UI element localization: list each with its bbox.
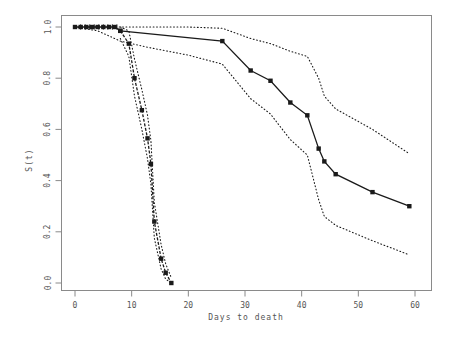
data-point-marker: [163, 271, 167, 275]
x-tick-label: 40: [297, 301, 307, 310]
data-point-marker: [132, 76, 136, 80]
x-tick-label: 0: [73, 301, 78, 310]
data-point-marker: [149, 162, 153, 166]
y-tick-label: 0.2: [44, 224, 53, 239]
data-point-marker: [152, 219, 156, 223]
data-point-marker: [78, 25, 82, 29]
data-point-marker: [316, 146, 320, 150]
data-point-marker: [118, 29, 122, 33]
data-point-marker: [159, 256, 163, 260]
data-point-marker: [107, 25, 111, 29]
data-point-marker: [370, 190, 374, 194]
data-point-marker: [305, 113, 309, 117]
data-point-marker: [127, 41, 131, 45]
data-point-marker: [90, 25, 94, 29]
data-point-marker: [169, 281, 173, 285]
y-tick-label: 0.6: [44, 122, 53, 137]
chart-root: 0.00.20.40.60.81.0 0102030405060 Days to…: [0, 0, 462, 340]
data-point-marker: [333, 172, 337, 176]
data-point-marker: [248, 68, 252, 72]
data-point-marker: [101, 25, 105, 29]
survival-curve-chart: 0.00.20.40.60.81.0 0102030405060 Days to…: [0, 0, 462, 340]
y-tick-label: 0.8: [44, 71, 53, 86]
y-tick-label: 0.4: [44, 173, 53, 188]
data-point-marker: [140, 108, 144, 112]
x-tick-label: 60: [410, 301, 420, 310]
data-point-marker: [112, 25, 116, 29]
y-tick-label: 0.0: [44, 276, 53, 291]
x-tick-label: 10: [127, 301, 137, 310]
x-tick-label: 50: [354, 301, 364, 310]
x-tick-label: 30: [240, 301, 250, 310]
data-point-marker: [288, 100, 292, 104]
data-point-marker: [95, 25, 99, 29]
x-tick-label: 20: [184, 301, 194, 310]
data-point-marker: [73, 25, 77, 29]
data-point-marker: [407, 204, 411, 208]
data-point-marker: [145, 136, 149, 140]
y-axis-title: S(t): [25, 148, 34, 171]
data-point-marker: [268, 79, 272, 83]
y-tick-label: 1.0: [44, 20, 53, 35]
data-point-marker: [84, 25, 88, 29]
data-point-marker: [220, 39, 224, 43]
data-point-marker: [322, 159, 326, 163]
x-axis-title: Days to death: [208, 313, 284, 322]
